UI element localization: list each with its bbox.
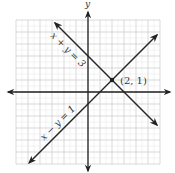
line-label-x-minus-y: x − y = 1: [38, 103, 77, 142]
coordinate-graph: y (2, 1) x + y = 3 x − y = 1: [0, 0, 175, 173]
y-axis: y: [84, 0, 91, 171]
line-1: [29, 35, 157, 163]
intersection-point: [110, 78, 114, 82]
y-axis-label: y: [84, 0, 91, 9]
intersection-label: (2, 1): [120, 75, 147, 86]
